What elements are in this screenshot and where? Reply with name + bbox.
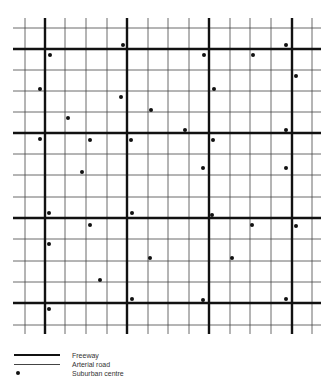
suburban-centre-dot xyxy=(80,170,84,174)
arterial-roads xyxy=(13,18,321,334)
suburban-centre-dot xyxy=(148,256,152,260)
arterial-line-icon xyxy=(14,360,60,369)
suburban-centre-dot xyxy=(149,108,153,112)
suburban-centre-dot xyxy=(48,53,52,57)
suburban-centre-dot xyxy=(47,211,51,215)
suburban-centre-dot xyxy=(38,137,42,141)
legend: Freeway Arterial road Suburban centre xyxy=(14,351,124,378)
suburban-centre-dot xyxy=(201,298,205,302)
suburban-centre-dot xyxy=(38,87,42,91)
suburban-centre-dot xyxy=(98,278,102,282)
legend-item-arterial-road: Arterial road xyxy=(14,360,124,369)
suburban-centre-dot xyxy=(251,53,255,57)
legend-item-suburban-centre: Suburban centre xyxy=(14,369,124,378)
suburban-centre-dot xyxy=(230,256,234,260)
suburban-centre-dot xyxy=(201,166,205,170)
suburban-centre-dot xyxy=(88,138,92,142)
suburban-centre-dot xyxy=(66,116,70,120)
suburban-centre-dot xyxy=(121,43,125,47)
legend-label: Freeway xyxy=(72,352,99,359)
suburban-centre-dot xyxy=(130,211,134,215)
suburban-centre-dot xyxy=(129,138,133,142)
suburban-centre-dot xyxy=(284,43,288,47)
suburban-centre-dot xyxy=(284,297,288,301)
suburban-centre-dot xyxy=(88,223,92,227)
freeway-line-icon xyxy=(14,351,60,360)
road-network-diagram xyxy=(0,0,331,345)
suburban-centre-dot xyxy=(294,74,298,78)
suburban-centre-dot xyxy=(210,213,214,217)
freeways xyxy=(13,18,321,334)
suburban-centre-dot xyxy=(183,128,187,132)
suburban-centre-dot xyxy=(211,138,215,142)
suburban-centre-dot xyxy=(212,87,216,91)
legend-item-freeway: Freeway xyxy=(14,351,124,360)
suburban-centre-dot xyxy=(130,297,134,301)
legend-label: Suburban centre xyxy=(72,370,124,377)
suburban-centre-dot xyxy=(284,166,288,170)
dot-icon xyxy=(14,369,60,378)
suburban-centre-dot xyxy=(119,95,123,99)
suburban-centre-dot xyxy=(284,128,288,132)
legend-label: Arterial road xyxy=(72,361,110,368)
suburban-centre-dot xyxy=(250,223,254,227)
suburban-centre-dot xyxy=(47,307,51,311)
suburban-centre-dot xyxy=(202,53,206,57)
suburban-centre-dot xyxy=(47,242,51,246)
suburban-centre-dot xyxy=(294,224,298,228)
